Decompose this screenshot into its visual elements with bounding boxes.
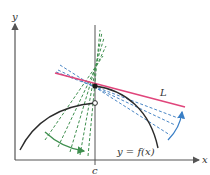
tangent-label: L [159, 87, 167, 98]
filled-point [92, 83, 97, 88]
curve-label: y = f(x) [116, 146, 155, 157]
y-axis-label: y [11, 11, 18, 22]
x-axis-label: x [202, 154, 208, 165]
right-approach-arrow [168, 112, 182, 140]
left-approach-arrow [45, 132, 84, 151]
curve-left-branch [20, 103, 95, 150]
c-label: c [92, 165, 98, 175]
left-secant-lines [45, 30, 106, 156]
open-point [93, 101, 98, 106]
tangent-limit-diagram: y x c L y = f(x) [0, 0, 210, 175]
curve-right-branch [95, 86, 158, 148]
